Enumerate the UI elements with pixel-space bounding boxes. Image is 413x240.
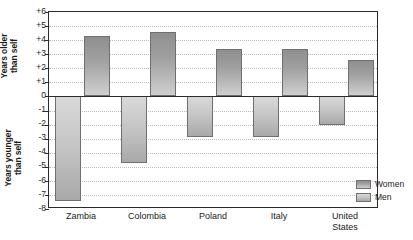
y-axis-tickmark xyxy=(45,68,49,69)
gridline xyxy=(49,167,377,168)
y-axis-tickmark xyxy=(45,153,49,154)
y-axis-tick-label: 0 xyxy=(41,91,46,100)
bar-women-zambia xyxy=(55,96,81,200)
bar-men-italy xyxy=(282,49,308,97)
legend-swatch-men xyxy=(356,193,371,202)
y-axis-tickmark xyxy=(45,40,49,41)
bar-men-united-states xyxy=(348,60,374,97)
bar-women-poland xyxy=(187,96,213,137)
gridline xyxy=(49,26,377,27)
gridline xyxy=(49,153,377,154)
y-axis-tickmark xyxy=(45,195,49,196)
bar-men-poland xyxy=(216,49,242,97)
bar-men-colombia xyxy=(150,32,176,97)
gridline xyxy=(49,181,377,182)
legend-item-women: Women xyxy=(356,180,413,189)
y-axis-tick-label: +6 xyxy=(36,7,46,16)
y-axis-tickmark xyxy=(45,167,49,168)
x-axis-label-italy: Italy xyxy=(246,211,312,222)
y-axis-tick-label: -2 xyxy=(38,119,46,128)
y-axis-tick-label: -5 xyxy=(38,161,46,170)
x-axis-label-colombia: Colombia xyxy=(114,211,180,222)
y-axis-tickmark xyxy=(45,54,49,55)
y-axis-tick-label: -8 xyxy=(38,204,46,213)
x-axis-label-zambia: Zambia xyxy=(48,211,114,222)
y-axis-tick-label: -3 xyxy=(38,133,46,142)
y-axis-tickmark xyxy=(45,12,49,13)
legend-label-women: Women xyxy=(375,180,404,189)
y-axis-tickmark xyxy=(45,26,49,27)
y-axis-tick-label: +4 xyxy=(36,35,46,44)
y-axis-tick-labels: +6+5+4+3+2+10-1-2-3-4-5-6-7-8 xyxy=(20,0,46,240)
chart-legend: WomenMen xyxy=(356,180,413,206)
gridline xyxy=(49,125,377,126)
bar-women-colombia xyxy=(121,96,147,162)
y-axis-tick-label: -7 xyxy=(38,190,46,199)
y-axis-tick-label: +2 xyxy=(36,63,46,72)
legend-label-men: Men xyxy=(375,193,392,202)
y-axis-tickmark xyxy=(45,82,49,83)
bar-men-zambia xyxy=(84,36,110,97)
legend-item-men: Men xyxy=(356,193,413,202)
legend-swatch-women xyxy=(356,180,371,189)
bar-women-italy xyxy=(253,96,279,137)
y-axis-tick-label: -4 xyxy=(38,147,46,156)
y-axis-tick-label: +1 xyxy=(36,77,46,86)
bar-women-united-states xyxy=(319,96,345,124)
x-axis-category-labels: ZambiaColombiaPolandItalyUnited States xyxy=(48,211,378,240)
y-axis-tick-label: -6 xyxy=(38,176,46,185)
y-axis-tickmark xyxy=(45,125,49,126)
gridline xyxy=(49,139,377,140)
plot-area xyxy=(48,11,378,208)
x-axis-label-united-states: United States xyxy=(312,211,378,233)
gridline xyxy=(49,195,377,196)
y-axis-tickmark xyxy=(45,181,49,182)
plot-inner xyxy=(49,12,377,207)
zero-axis-line xyxy=(48,96,378,97)
x-axis-label-poland: Poland xyxy=(180,211,246,222)
y-axis-tickmark xyxy=(45,209,49,210)
y-axis-title-upper: Years older than self xyxy=(0,26,19,86)
y-axis-tick-label: +3 xyxy=(36,49,46,58)
y-axis-tick-label: +5 xyxy=(36,21,46,30)
chart-container: Years older than self Years younger than… xyxy=(0,0,413,240)
y-axis-tick-label: -1 xyxy=(38,105,46,114)
y-axis-tickmark xyxy=(45,139,49,140)
y-axis-tickmark xyxy=(45,111,49,112)
